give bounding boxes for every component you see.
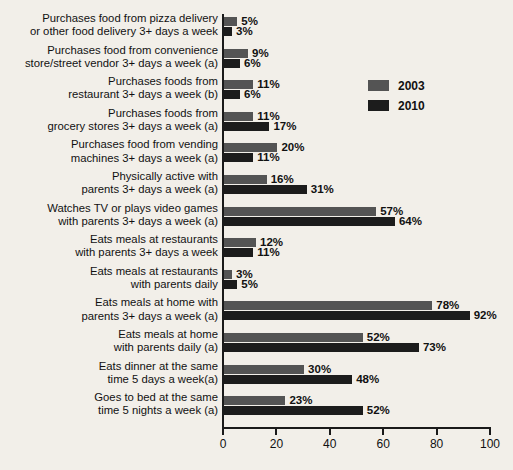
bar-2010 [224, 311, 470, 320]
bar-value-label: 11% [257, 246, 279, 258]
bar-value-label: 92% [474, 309, 497, 321]
category-label-line: Watches TV or plays video games [4, 202, 218, 215]
chart-legend: 2003 2010 [368, 77, 425, 117]
x-axis-tick-label: 100 [480, 437, 500, 451]
bar-2003 [224, 333, 363, 342]
category-label-line: parents 3+ days a week (a) [4, 183, 218, 196]
x-axis-tick-label: 0 [220, 437, 227, 451]
category-label-line: with parents daily (a) [4, 341, 218, 354]
category-label: Eats dinner at the sametime 5 days a wee… [4, 360, 218, 386]
bar-2010 [224, 153, 253, 162]
x-axis-line [222, 427, 491, 429]
category-label: Purchases food from vendingmachines 3+ d… [4, 138, 218, 164]
x-axis-tick-label: 20 [270, 437, 283, 451]
bar-2010 [224, 185, 307, 194]
bar-value-label: 20% [281, 141, 304, 153]
bar-chart: Purchases food from pizza deliveryor oth… [0, 0, 513, 470]
category-label-line: Eats meals at home [4, 328, 218, 341]
category-label-line: time 5 nights a week (a) [4, 404, 218, 417]
x-axis-tick [436, 429, 438, 435]
bar-2010 [224, 217, 395, 226]
bar-2003 [224, 207, 376, 216]
bar-2010 [224, 280, 237, 289]
category-label-line: with parents daily [4, 278, 218, 291]
category-label-line: store/street vendor 3+ days a week (a) [4, 57, 218, 70]
category-label-line: Goes to bed at the same [4, 391, 218, 404]
category-label-line: restaurant 3+ days a week (b) [4, 88, 218, 101]
category-label: Eats meals at restaurantswith parents da… [4, 265, 218, 291]
x-axis-tick-label: 60 [377, 437, 390, 451]
bar-value-label: 6% [244, 88, 261, 100]
bar-2010 [224, 27, 232, 36]
x-axis-tick [382, 429, 384, 435]
category-label-line: time 5 days a week(a) [4, 373, 218, 386]
bar-2003 [224, 365, 304, 374]
bar-2010 [224, 406, 363, 415]
legend-label-2010: 2010 [398, 99, 425, 113]
bar-value-label: 23% [289, 394, 312, 406]
bar-value-label: 31% [311, 183, 334, 195]
bar-2010 [224, 90, 240, 99]
bar-value-label: 16% [271, 173, 294, 185]
bar-value-label: 30% [308, 363, 331, 375]
bar-2003 [224, 238, 256, 247]
bar-value-label: 64% [399, 215, 422, 227]
bar-value-label: 5% [241, 278, 258, 290]
legend-swatch-icon-2010 [368, 100, 389, 111]
bar-value-label: 17% [273, 120, 296, 132]
category-label-line: machines 3+ days a week (a) [4, 152, 218, 165]
bar-2003 [224, 112, 253, 121]
bar-value-label: 6% [244, 57, 261, 69]
category-label-line: Purchases foods from [4, 75, 218, 88]
bar-2003 [224, 301, 432, 310]
bar-2010 [224, 59, 240, 68]
legend-label-2003: 2003 [398, 79, 425, 93]
bar-2003 [224, 396, 285, 405]
x-axis-tick [489, 429, 491, 435]
category-label-line: Purchases foods from [4, 107, 218, 120]
bar-value-label: 3% [236, 25, 253, 37]
bar-value-label: 73% [423, 341, 446, 353]
category-label: Eats meals at restaurantswith parents 3+… [4, 233, 218, 259]
category-label: Purchases foods fromrestaurant 3+ days a… [4, 75, 218, 101]
bar-2010 [224, 122, 269, 131]
bar-value-label: 78% [436, 299, 459, 311]
category-label: Eats meals at home withparents 3+ days a… [4, 296, 218, 322]
bar-2003 [224, 175, 267, 184]
category-label-line: grocery stores 3+ days a week (a) [4, 120, 218, 133]
category-label-line: Purchases food from vending [4, 138, 218, 151]
bar-2010 [224, 248, 253, 257]
category-label: Physically active withparents 3+ days a … [4, 170, 218, 196]
x-axis-tick [222, 429, 224, 435]
category-label-line: parents 3+ days a week (a) [4, 310, 218, 323]
category-label-line: Physically active with [4, 170, 218, 183]
category-label: Purchases foods fromgrocery stores 3+ da… [4, 107, 218, 133]
bar-2010 [224, 343, 419, 352]
x-axis-tick [275, 429, 277, 435]
category-label: Purchases food from conveniencestore/str… [4, 44, 218, 70]
x-axis-tick-label: 40 [323, 437, 336, 451]
category-label-line: Eats meals at restaurants [4, 265, 218, 278]
bar-value-label: 52% [367, 404, 390, 416]
bar-2003 [224, 270, 232, 279]
x-axis-tick-label: 80 [430, 437, 443, 451]
category-label: Watches TV or plays video gameswith pare… [4, 202, 218, 228]
category-label-line: Eats dinner at the same [4, 360, 218, 373]
legend-swatch-icon-2003 [368, 80, 389, 91]
x-axis-tick [329, 429, 331, 435]
category-label-line: Purchases food from pizza delivery [4, 12, 218, 25]
category-label-line: or other food delivery 3+ days a week [4, 25, 218, 38]
category-label: Goes to bed at the sametime 5 nights a w… [4, 391, 218, 417]
category-label-line: with parents 3+ days a week (a) [4, 215, 218, 228]
legend-item-2010: 2010 [368, 97, 425, 114]
legend-item-2003: 2003 [368, 77, 425, 94]
category-label-line: Eats meals at restaurants [4, 233, 218, 246]
category-label-line: Purchases food from convenience [4, 44, 218, 57]
bar-2010 [224, 375, 352, 384]
category-label-line: with parents 3+ days a week [4, 246, 218, 259]
category-label: Purchases food from pizza deliveryor oth… [4, 12, 218, 38]
bar-value-label: 11% [257, 151, 279, 163]
category-label-line: Eats meals at home with [4, 296, 218, 309]
category-label: Eats meals at homewith parents daily (a) [4, 328, 218, 354]
bar-value-label: 48% [356, 373, 379, 385]
